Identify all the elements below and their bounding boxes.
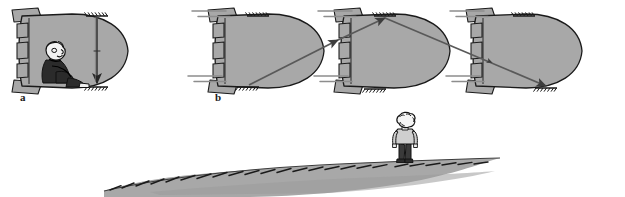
figure-canvas: a: [0, 0, 625, 197]
panel-a: a: [12, 8, 128, 103]
hill-ground: [104, 158, 500, 197]
panel-b: b: [188, 8, 582, 103]
illustration-svg: a: [0, 0, 625, 197]
floor-mirror-position-3: [534, 88, 558, 92]
ceiling-mirror: [85, 12, 109, 16]
standing-observer: [393, 112, 418, 162]
panel-b-label: b: [215, 91, 221, 103]
floor-mirror-position-1: [236, 87, 260, 91]
floor-mirror-position-2: [363, 89, 387, 93]
panel-a-label: a: [20, 91, 26, 103]
